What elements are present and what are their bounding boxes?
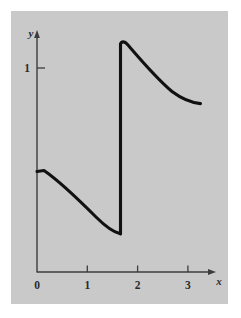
x-axis-arrow-icon xyxy=(208,269,216,275)
x-tick-marks xyxy=(87,266,188,273)
x-tick-label-1: 1 xyxy=(84,279,90,291)
y-axis-arrow-icon xyxy=(34,30,40,38)
x-tick-label-0: 0 xyxy=(34,279,40,291)
x-tick-label-3: 3 xyxy=(185,279,191,291)
curve-branch-2 xyxy=(121,42,201,104)
data-curve-group xyxy=(37,42,201,234)
x-tick-label-2: 2 xyxy=(135,279,141,291)
y-tick-label-1: 1 xyxy=(24,62,30,74)
axes-group xyxy=(34,30,216,275)
y-axis-label: y xyxy=(27,27,34,39)
x-axis-label: x xyxy=(215,275,222,287)
curve-branch-1 xyxy=(37,171,120,234)
plot-canvas: 0 1 2 3 1 y x xyxy=(0,0,241,318)
figure-root: 0 1 2 3 1 y x xyxy=(0,0,241,318)
